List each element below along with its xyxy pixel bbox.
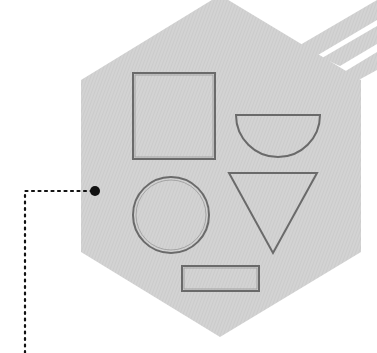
diagram-canvas xyxy=(0,0,377,353)
leader-dot-icon xyxy=(90,186,100,196)
